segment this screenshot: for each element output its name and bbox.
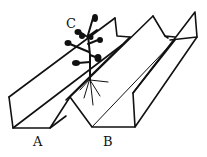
label-c: C [66,17,76,30]
label-b: B [103,135,113,148]
right-wall [133,12,197,127]
channel-a [9,18,130,128]
label-a: A [33,135,42,148]
